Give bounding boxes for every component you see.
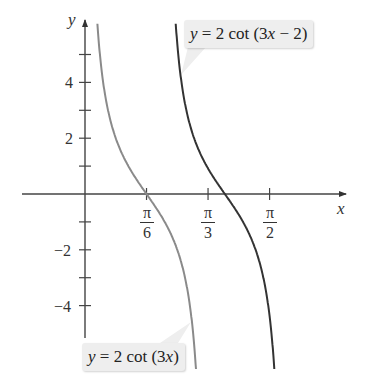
y-axis-label: y — [68, 10, 76, 30]
numerator: π — [204, 204, 212, 221]
eq-rest: − 2) — [275, 24, 307, 43]
x-tick-label-pi-over-6: π 6 — [137, 204, 157, 241]
bottom-label-pointer — [160, 322, 191, 343]
eq-text: = 2 cot (3 — [96, 347, 166, 366]
x-tick-label-pi-over-3: π 3 — [198, 204, 218, 241]
var-x: x — [268, 24, 276, 43]
x-axis-label: x — [337, 199, 345, 219]
numerator: π — [143, 204, 151, 221]
denominator: 3 — [204, 224, 212, 241]
axis-ticks — [79, 55, 270, 306]
denominator: 6 — [143, 224, 151, 241]
eq-rest: ) — [173, 347, 179, 366]
denominator: 2 — [266, 224, 274, 241]
top-label-pointer — [181, 47, 206, 75]
var-x: x — [166, 347, 174, 366]
var-y: y — [190, 24, 198, 43]
y-tick-label-neg4: −4 — [54, 298, 71, 316]
label-2cot-3x: y = 2 cot (3x) — [82, 343, 185, 371]
var-y: y — [88, 347, 96, 366]
y-tick-label-neg2: −2 — [54, 242, 71, 260]
label-2cot-3x-minus-2: y = 2 cot (3x − 2) — [184, 20, 313, 48]
x-tick-label-pi-over-2: π 2 — [260, 204, 280, 241]
cotangent-chart — [0, 0, 369, 388]
y-tick-label-4: 4 — [65, 74, 73, 92]
numerator: π — [266, 204, 274, 221]
eq-text: = 2 cot (3 — [198, 24, 268, 43]
y-tick-label-2: 2 — [65, 130, 73, 148]
